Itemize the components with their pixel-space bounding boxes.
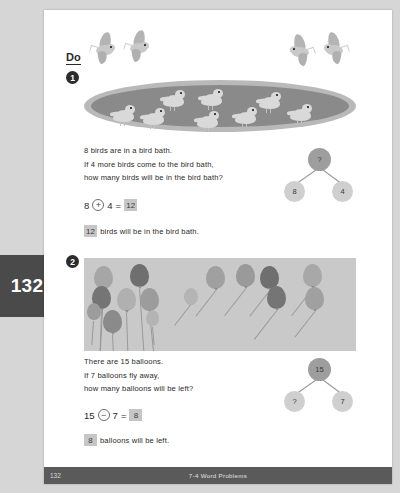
equation-1-equals-sign: = [116,200,122,211]
bath-bird-icon [160,90,187,109]
problem-1-answer-sentence: 12 birds will be in the bird bath. [84,225,199,237]
page-content: Do 1 [44,10,392,484]
problem-2-line-1: There are 15 balloons. [84,355,193,369]
problem-1-number-bond: ? 8 4 [276,148,362,208]
bond-2-total-node: 15 [308,358,331,381]
equation-1-operator[interactable]: + [92,199,104,211]
equation-1-right-operand: 4 [107,200,112,211]
problem-2-line-2: If 7 balloons fly away, [84,369,193,383]
bond-1-part-left-node: 8 [284,181,305,202]
equation-2-left-operand: 15 [84,410,95,421]
problem-2-statement: There are 15 balloons. If 7 balloons fly… [84,355,193,396]
page-footer: 132 7-4 Word Problems [44,467,392,484]
problem-1-line-2: If 4 more birds come to the bird bath, [84,158,223,172]
bond-2-part-right-node: 7 [332,391,353,412]
bath-bird-icon [140,108,167,127]
bond-2-part-left-node: ? [284,391,305,412]
page-tab-number: 132 [11,275,44,297]
worksheet-page: Do 1 [44,10,392,484]
sentence-2-answer-field[interactable]: 8 [84,434,97,446]
bath-bird-icon [256,92,283,111]
balloons-illustration [84,258,356,351]
section-heading: Do [66,52,81,65]
equation-2-answer-field[interactable]: 8 [129,409,142,421]
flying-bird-icon [287,34,313,64]
equation-2-operator[interactable]: − [98,409,110,421]
equation-2-right-operand: 7 [113,410,118,421]
flying-bird-icon [321,32,347,62]
problem-2-marker: 2 [66,255,79,268]
bond-1-part-right-node: 4 [332,181,353,202]
flying-bird-icon [92,32,118,62]
sentence-1-answer-field[interactable]: 12 [84,225,97,237]
page-root: 132 Do 1 [0,0,400,493]
equation-1-left-operand: 8 [84,200,89,211]
bird-bath-illustration [84,80,356,132]
equation-1-answer-field[interactable]: 12 [124,199,137,211]
problem-1-line-3: how many birds will be in the bird bath? [84,171,223,185]
sentence-2-text: balloons will be left. [100,436,169,445]
bath-bird-icon [110,105,137,124]
footer-lesson-title: 7-4 Word Problems [44,472,392,479]
problem-1-statement: 8 birds are in a bird bath. If 4 more bi… [84,144,223,185]
bath-bird-icon [194,111,221,130]
problem-2-answer-sentence: 8 balloons will be left. [84,434,169,446]
problem-1-marker: 1 [66,71,79,84]
sentence-1-text: birds will be in the bird bath. [100,227,199,236]
bath-bird-icon [198,89,225,108]
bath-bird-icon [232,107,259,126]
bond-1-total-node: ? [308,148,331,171]
footer-page-number: 132 [50,472,61,479]
problem-2-number-bond: 15 ? 7 [276,358,362,418]
bath-bird-icon [287,104,314,123]
equation-2-equals-sign: = [121,410,127,421]
flying-bird-icon [126,30,152,60]
problem-2-equation: 15 − 7 = 8 [84,409,142,421]
problem-2-line-3: how many balloons will be left? [84,382,193,396]
problem-1-equation: 8 + 4 = 12 [84,199,137,211]
problem-1-line-1: 8 birds are in a bird bath. [84,144,223,158]
